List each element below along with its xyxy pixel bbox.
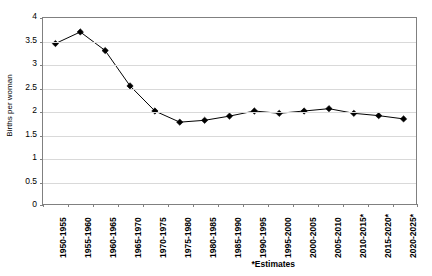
data-series-line	[43, 18, 416, 204]
y-axis-tick-label: 1.5	[15, 130, 37, 139]
y-axis-tick-mark	[40, 89, 43, 90]
y-axis-tick-mark	[40, 136, 43, 137]
y-axis-tick-mark	[40, 159, 43, 160]
x-axis-tick-labels: 1950-19551955-19601960-19651965-19701970…	[42, 206, 417, 258]
plot-area	[42, 17, 417, 205]
gridline	[43, 65, 416, 66]
data-point-marker	[177, 119, 183, 125]
gridline	[43, 136, 416, 137]
data-point-marker	[301, 108, 307, 114]
x-axis-tick-label-text: 1965-1970	[134, 206, 143, 258]
data-point-marker	[376, 112, 382, 118]
y-axis-tick-mark	[40, 112, 43, 113]
gridline	[43, 183, 416, 184]
y-axis-tick-labels: 00.511.522.533.54	[16, 0, 40, 276]
y-axis-tick-mark	[40, 65, 43, 66]
y-axis-tick-label: 3	[15, 59, 37, 68]
x-axis-tick-label-text: 1950-1955	[59, 206, 68, 258]
x-axis-tick-label-text: 1990-1995	[259, 206, 268, 258]
x-axis-tick-label-text: 2000-2005	[309, 206, 318, 258]
x-axis-tick-label-text: 2010-2015*	[359, 206, 368, 258]
x-axis-tick-label: 2020-2025*	[409, 206, 432, 258]
y-axis-tick-mark	[40, 18, 43, 19]
data-point-marker	[251, 108, 257, 114]
x-axis-tick-label-text: 1960-1965	[109, 206, 118, 258]
y-axis-tick-label: 0.5	[15, 177, 37, 186]
x-axis-tick-label-text: 1970-1975	[159, 206, 168, 258]
x-axis-tick-label-text: 1955-1960	[84, 206, 93, 258]
y-axis-tick-mark	[40, 42, 43, 43]
data-point-marker	[326, 106, 332, 112]
data-point-marker	[400, 116, 406, 122]
x-axis-tick-label-text: 2020-2025*	[409, 206, 418, 258]
data-point-marker	[201, 117, 207, 123]
chart-container: Births per woman 00.511.522.533.54 1950-…	[0, 0, 432, 276]
y-axis-tick-mark	[40, 183, 43, 184]
y-axis-title-text: Births per woman	[5, 74, 14, 136]
x-axis-tick-label-text: 1995-2000	[284, 206, 293, 258]
x-axis-tick-label-text: 1985-1990	[234, 206, 243, 258]
gridline	[43, 89, 416, 90]
x-axis-tick-label-text: 2005-2010	[334, 206, 343, 258]
gridline	[43, 112, 416, 113]
y-axis-tick-label: 1	[15, 153, 37, 162]
y-axis-tick-label: 3.5	[15, 36, 37, 45]
series-polyline	[55, 32, 403, 122]
x-axis-tick-label-text: 1975-1980	[184, 206, 193, 258]
chart-footnote: *Estimates	[0, 259, 295, 269]
gridline	[43, 42, 416, 43]
gridline	[43, 159, 416, 160]
y-axis-tick-label: 0	[15, 200, 37, 209]
x-axis-tick-label-text: 1980-1985	[209, 206, 218, 258]
y-axis-tick-label: 2.5	[15, 83, 37, 92]
y-axis-tick-label: 2	[15, 106, 37, 115]
y-axis-tick-label: 4	[15, 12, 37, 21]
data-point-marker	[226, 113, 232, 119]
x-axis-tick-label-text: 2015-2020*	[384, 206, 393, 258]
